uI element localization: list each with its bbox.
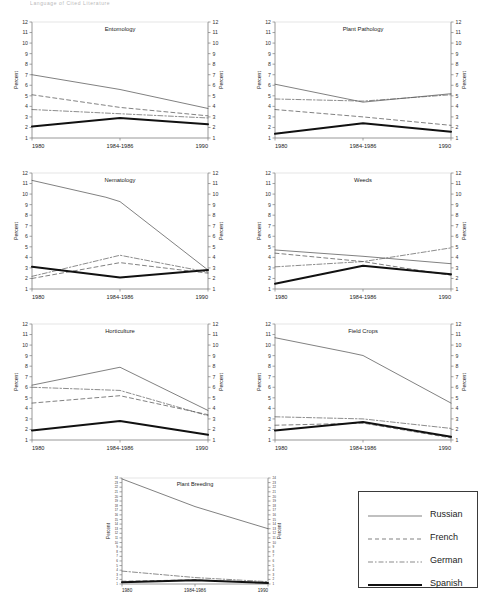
svg-text:6: 6 xyxy=(25,384,28,390)
svg-text:6: 6 xyxy=(268,384,271,390)
svg-text:11: 11 xyxy=(456,331,461,337)
svg-text:Field Crops: Field Crops xyxy=(348,328,378,334)
svg-text:Percent: Percent xyxy=(461,71,467,89)
svg-text:9: 9 xyxy=(213,202,216,208)
svg-text:8: 8 xyxy=(273,550,275,554)
svg-text:11: 11 xyxy=(266,180,271,186)
svg-text:Plant Pathology: Plant Pathology xyxy=(343,26,384,32)
series-line-spanish xyxy=(275,123,451,134)
svg-text:1: 1 xyxy=(213,135,216,141)
svg-text:4: 4 xyxy=(213,103,216,109)
svg-text:6: 6 xyxy=(213,233,216,239)
svg-text:Percent: Percent xyxy=(461,373,467,391)
svg-text:7: 7 xyxy=(456,374,459,380)
svg-text:10: 10 xyxy=(265,40,271,46)
svg-text:2: 2 xyxy=(268,275,271,281)
svg-text:3: 3 xyxy=(213,114,216,120)
svg-text:12: 12 xyxy=(115,531,119,535)
svg-text:2: 2 xyxy=(456,426,459,432)
svg-text:20: 20 xyxy=(273,495,277,499)
svg-text:5: 5 xyxy=(25,395,28,401)
svg-text:1: 1 xyxy=(213,437,216,443)
svg-text:7: 7 xyxy=(456,72,459,78)
svg-text:Entomology: Entomology xyxy=(105,26,136,32)
svg-text:8: 8 xyxy=(268,61,271,67)
svg-text:8: 8 xyxy=(268,363,271,369)
svg-text:8: 8 xyxy=(268,212,271,218)
svg-text:5: 5 xyxy=(456,93,459,99)
svg-text:5: 5 xyxy=(456,395,459,401)
svg-text:8: 8 xyxy=(456,212,459,218)
svg-text:9: 9 xyxy=(273,545,275,549)
svg-text:1: 1 xyxy=(456,135,459,141)
svg-text:7: 7 xyxy=(25,374,28,380)
svg-text:9: 9 xyxy=(116,545,118,549)
svg-text:13: 13 xyxy=(115,527,119,531)
svg-text:2: 2 xyxy=(25,275,28,281)
series-line-spanish xyxy=(32,421,208,435)
svg-text:7: 7 xyxy=(268,223,271,229)
svg-text:12: 12 xyxy=(213,321,219,327)
svg-text:24: 24 xyxy=(115,476,119,480)
svg-text:15: 15 xyxy=(273,518,277,522)
series-line-russian xyxy=(275,338,451,403)
svg-text:Nematology: Nematology xyxy=(105,177,136,183)
svg-text:1984-1986: 1984-1986 xyxy=(350,445,377,451)
svg-text:3: 3 xyxy=(116,573,118,577)
series-line-spanish xyxy=(32,267,208,278)
svg-text:1: 1 xyxy=(456,437,459,443)
svg-text:7: 7 xyxy=(268,72,271,78)
svg-text:11: 11 xyxy=(266,331,271,337)
svg-text:10: 10 xyxy=(265,342,271,348)
svg-text:9: 9 xyxy=(25,202,28,208)
svg-text:3: 3 xyxy=(268,265,271,271)
series-line-french xyxy=(32,396,208,415)
svg-text:5: 5 xyxy=(116,564,118,568)
svg-text:7: 7 xyxy=(116,554,118,558)
svg-text:7: 7 xyxy=(456,223,459,229)
svg-text:8: 8 xyxy=(213,212,216,218)
figure-title: Language of Cited Literature xyxy=(30,0,220,7)
svg-text:3: 3 xyxy=(268,114,271,120)
legend-item-french: French xyxy=(359,525,477,548)
legend: RussianFrenchGermanSpanish xyxy=(358,491,478,588)
svg-text:14: 14 xyxy=(115,522,119,526)
svg-text:20: 20 xyxy=(115,495,119,499)
svg-text:2: 2 xyxy=(456,124,459,130)
svg-text:9: 9 xyxy=(456,353,459,359)
svg-text:6: 6 xyxy=(116,559,118,563)
svg-text:4: 4 xyxy=(273,568,275,572)
series-line-russian xyxy=(32,180,208,270)
svg-text:7: 7 xyxy=(213,223,216,229)
series-line-german xyxy=(275,248,451,267)
svg-text:4: 4 xyxy=(456,103,459,109)
svg-text:8: 8 xyxy=(25,363,28,369)
svg-text:5: 5 xyxy=(268,395,271,401)
svg-text:11: 11 xyxy=(23,180,28,186)
svg-text:6: 6 xyxy=(25,233,28,239)
svg-text:3: 3 xyxy=(25,114,28,120)
svg-text:4: 4 xyxy=(213,254,216,260)
svg-text:19: 19 xyxy=(115,499,119,503)
svg-text:10: 10 xyxy=(22,342,28,348)
svg-text:2: 2 xyxy=(268,124,271,130)
svg-text:Percent: Percent xyxy=(218,71,224,89)
svg-text:9: 9 xyxy=(268,353,271,359)
svg-text:4: 4 xyxy=(25,254,28,260)
svg-text:1: 1 xyxy=(116,582,118,586)
svg-text:Horticulture: Horticulture xyxy=(105,328,135,334)
svg-text:8: 8 xyxy=(25,212,28,218)
legend-item-german: German xyxy=(359,548,477,571)
svg-text:1984-1986: 1984-1986 xyxy=(107,445,134,451)
svg-text:3: 3 xyxy=(268,416,271,422)
svg-text:3: 3 xyxy=(273,573,275,577)
svg-text:Percent: Percent xyxy=(218,222,224,240)
legend-swatch-solid-thin-icon xyxy=(367,508,423,520)
series-line-german xyxy=(32,387,208,415)
series-line-russian xyxy=(32,367,208,410)
svg-text:9: 9 xyxy=(213,51,216,57)
svg-text:7: 7 xyxy=(213,72,216,78)
svg-text:2: 2 xyxy=(213,275,216,281)
svg-text:1990: 1990 xyxy=(258,588,269,593)
series-line-spanish xyxy=(275,422,451,437)
